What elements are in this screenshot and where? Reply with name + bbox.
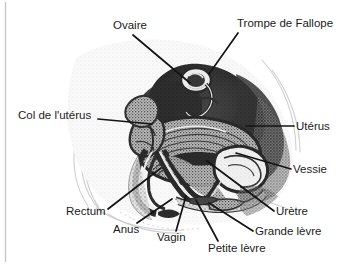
label-petite-levre: Petite lèvre	[208, 242, 266, 254]
label-col-de-luterus: Col de l'utérus	[18, 109, 91, 121]
anatomy-figure: OvaireTrompe de FallopeCol de l'utérusUt…	[0, 0, 345, 274]
label-vagin: Vagin	[157, 231, 186, 243]
label-ovaire: Ovaire	[113, 19, 147, 31]
label-anus: Anus	[113, 223, 139, 235]
label-vessie: Vessie	[293, 163, 327, 175]
label-urethre: Urètre	[276, 205, 308, 217]
label-uterus: Utérus	[296, 120, 330, 132]
label-grande-levre: Grande lèvre	[255, 225, 321, 237]
label-trompe-de-fallope: Trompe de Fallope	[237, 17, 333, 29]
label-rectum: Rectum	[66, 205, 106, 217]
